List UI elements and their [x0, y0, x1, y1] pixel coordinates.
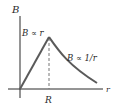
- r-tick-label: R: [44, 95, 52, 105]
- inner-region-label: B ∝ r: [21, 28, 44, 38]
- field-diagram: B r R B ∝ r B ∝ 1/r: [0, 0, 115, 108]
- x-axis-label: r: [106, 85, 111, 94]
- linear-segment: [20, 37, 49, 89]
- y-axis-label: B: [11, 4, 19, 15]
- outer-region-label: B ∝ 1/r: [66, 53, 98, 63]
